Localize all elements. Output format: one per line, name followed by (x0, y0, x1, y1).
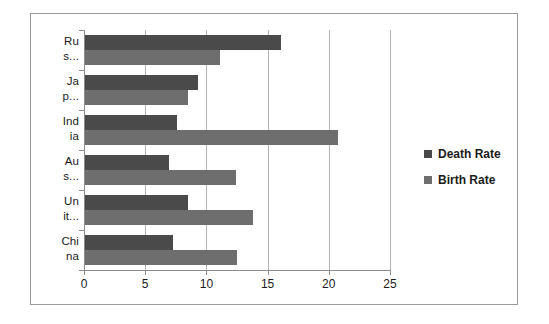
bar-birth-rate-russia[interactable] (85, 50, 220, 65)
bar-birth-rate-china[interactable] (85, 250, 237, 265)
gridline-5 (145, 30, 146, 270)
x-axis-label-15: 15 (253, 277, 283, 291)
x-axis-label-10: 10 (191, 277, 221, 291)
chart-container: 0510152025 Rus...Jap...IndiaAus...Unit..… (30, 13, 518, 305)
category-axis-line (84, 270, 390, 271)
bar-death-rate-china[interactable] (85, 235, 173, 250)
bar-death-rate-india[interactable] (85, 115, 177, 130)
category-label-line-0: Ru (33, 34, 79, 49)
category-label-australia: Aus... (33, 154, 79, 184)
legend-swatch-birth-rate (424, 176, 432, 184)
chart-legend: Death Rate Birth Rate (424, 141, 501, 193)
x-axis-label-20: 20 (314, 277, 344, 291)
category-label-russia: Rus... (33, 34, 79, 64)
bar-death-rate-united-states[interactable] (85, 195, 188, 210)
x-tick-10 (206, 270, 207, 275)
y-tick-5 (79, 230, 84, 231)
gridline-10 (206, 30, 207, 270)
category-label-line-1: it... (33, 209, 79, 224)
y-tick-2 (79, 110, 84, 111)
x-axis-label-25: 25 (375, 277, 405, 291)
legend-item-birth-rate[interactable]: Birth Rate (424, 167, 501, 193)
category-label-line-0: Ind (33, 114, 79, 129)
gridline-25 (390, 30, 391, 270)
bar-death-rate-australia[interactable] (85, 155, 169, 170)
y-tick-0 (79, 30, 84, 31)
x-axis-label-5: 5 (130, 277, 160, 291)
legend-label-death-rate: Death Rate (438, 147, 501, 161)
category-label-china: China (33, 234, 79, 264)
bar-death-rate-japan[interactable] (85, 75, 198, 90)
y-tick-end (79, 270, 84, 271)
category-label-united-states: Unit... (33, 194, 79, 224)
category-label-line-0: Chi (33, 234, 79, 249)
y-tick-1 (79, 70, 84, 71)
category-label-line-0: Ja (33, 74, 79, 89)
gridline-20 (329, 30, 330, 270)
legend-swatch-death-rate (424, 150, 432, 158)
x-tick-0 (84, 270, 85, 275)
value-axis-line (84, 30, 85, 270)
x-tick-20 (329, 270, 330, 275)
plot-area: 0510152025 (84, 30, 390, 270)
bar-birth-rate-japan[interactable] (85, 90, 188, 105)
category-label-india: India (33, 114, 79, 144)
x-tick-15 (268, 270, 269, 275)
bar-birth-rate-india[interactable] (85, 130, 338, 145)
x-axis-label-0: 0 (69, 277, 99, 291)
y-tick-3 (79, 150, 84, 151)
bar-birth-rate-australia[interactable] (85, 170, 236, 185)
category-label-line-1: p... (33, 89, 79, 104)
category-label-line-0: Un (33, 194, 79, 209)
bar-birth-rate-united-states[interactable] (85, 210, 253, 225)
x-tick-25 (390, 270, 391, 275)
bar-death-rate-russia[interactable] (85, 35, 281, 50)
category-label-line-1: s... (33, 169, 79, 184)
legend-label-birth-rate: Birth Rate (438, 173, 495, 187)
category-label-line-1: s... (33, 49, 79, 64)
category-label-line-0: Au (33, 154, 79, 169)
legend-item-death-rate[interactable]: Death Rate (424, 141, 501, 167)
category-label-line-1: na (33, 249, 79, 264)
category-label-japan: Jap... (33, 74, 79, 104)
category-label-line-1: ia (33, 129, 79, 144)
y-tick-4 (79, 190, 84, 191)
x-tick-5 (145, 270, 146, 275)
gridline-15 (268, 30, 269, 270)
